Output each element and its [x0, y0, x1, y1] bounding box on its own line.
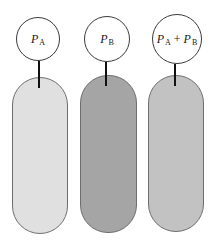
pressure-gauge-a: PA [16, 17, 60, 61]
pressure-symbol: P [100, 32, 107, 47]
gauge-stem-a [38, 61, 40, 88]
pressure-subscript: A [165, 38, 171, 47]
pressure-symbol: P [31, 32, 38, 47]
gas-container-a [12, 77, 68, 234]
pressure-gauge-b: PB [84, 16, 130, 62]
plus-sign: + [174, 32, 181, 47]
pressure-symbol: P [184, 32, 191, 47]
gas-container-b [80, 75, 137, 233]
pressure-symbol: P [157, 32, 164, 47]
pressure-subscript: B [192, 38, 197, 47]
pressure-subscript: A [39, 38, 45, 47]
gas-container-a-plus-b [148, 75, 204, 232]
pressure-gauge-a-plus-b: PA+PB [152, 14, 202, 64]
gas-containers-diagram: PA PB PA+PB [0, 0, 212, 244]
gauge-stem-a-plus-b [174, 64, 176, 86]
pressure-subscript: B [109, 38, 114, 47]
gauge-stem-b [105, 62, 107, 86]
